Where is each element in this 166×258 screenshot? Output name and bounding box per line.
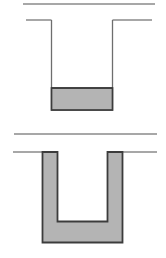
- u-lining-body: [43, 152, 123, 243]
- figure-u-shaped-channel-lining: [0, 129, 166, 258]
- figure-stack: [0, 0, 166, 258]
- trench-with-liquid-fill-svg: [0, 0, 166, 129]
- u-shaped-channel-lining-svg: [0, 129, 166, 258]
- figure-trench-with-liquid-fill: [0, 0, 166, 129]
- liquid-fill-block: [52, 88, 113, 110]
